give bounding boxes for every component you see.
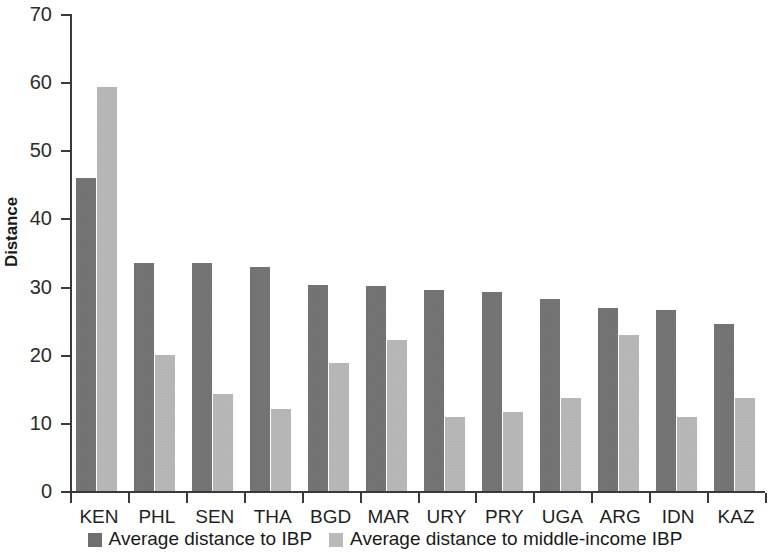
legend-label: Average distance to middle-income IBP bbox=[350, 528, 682, 550]
bar bbox=[561, 398, 581, 491]
x-tick bbox=[765, 493, 767, 503]
bar bbox=[76, 178, 96, 491]
x-tick bbox=[128, 493, 130, 503]
x-tick bbox=[302, 493, 304, 503]
x-tick-label: MAR bbox=[367, 506, 409, 528]
x-tick bbox=[533, 493, 535, 503]
x-tick bbox=[591, 493, 593, 503]
bar bbox=[250, 267, 270, 491]
chart-legend: Average distance to IBPAverage distance … bbox=[0, 528, 770, 550]
bar bbox=[329, 363, 349, 491]
x-tick-label: KEN bbox=[79, 506, 118, 528]
x-tick-label: PRY bbox=[485, 506, 524, 528]
x-tick bbox=[418, 493, 420, 503]
x-tick bbox=[707, 493, 709, 503]
x-tick-label: BGD bbox=[310, 506, 351, 528]
x-tick bbox=[475, 493, 477, 503]
bar bbox=[482, 292, 502, 491]
y-tick bbox=[61, 355, 70, 357]
bar bbox=[387, 340, 407, 491]
bar bbox=[366, 286, 386, 491]
bar bbox=[308, 285, 328, 491]
bar bbox=[445, 417, 465, 491]
y-axis-title: Distance bbox=[2, 182, 22, 282]
y-tick-label: 30 bbox=[8, 275, 52, 298]
legend-item[interactable]: Average distance to IBP bbox=[88, 528, 313, 550]
bar-chart-figure: Distance 010203040506070 KENPHLSENTHABGD… bbox=[0, 0, 770, 558]
bar bbox=[155, 355, 175, 491]
plot-area: 010203040506070 KENPHLSENTHABGDMARURYPRY… bbox=[70, 14, 765, 491]
x-tick-label: THA bbox=[254, 506, 292, 528]
y-tick bbox=[61, 82, 70, 84]
y-tick-label: 50 bbox=[8, 139, 52, 162]
y-axis-line bbox=[70, 14, 72, 491]
x-tick bbox=[649, 493, 651, 503]
y-tick bbox=[61, 14, 70, 16]
y-tick-label: 0 bbox=[8, 480, 52, 503]
bar bbox=[540, 299, 560, 491]
y-tick-label: 10 bbox=[8, 411, 52, 434]
y-tick-label: 60 bbox=[8, 71, 52, 94]
x-tick-label: KAZ bbox=[718, 506, 755, 528]
legend-label: Average distance to IBP bbox=[109, 528, 313, 550]
y-tick bbox=[61, 150, 70, 152]
x-tick bbox=[244, 493, 246, 503]
bar bbox=[271, 409, 291, 491]
y-tick-label: 20 bbox=[8, 343, 52, 366]
x-tick-label: URY bbox=[427, 506, 467, 528]
bar bbox=[97, 87, 117, 491]
bar bbox=[134, 263, 154, 491]
bar bbox=[192, 263, 212, 491]
y-tick bbox=[61, 423, 70, 425]
legend-swatch-icon bbox=[329, 533, 343, 547]
bar bbox=[213, 394, 233, 491]
x-tick-label: UGA bbox=[542, 506, 583, 528]
bar bbox=[714, 324, 734, 491]
y-tick-label: 40 bbox=[8, 207, 52, 230]
bar bbox=[503, 412, 523, 491]
x-tick-label: ARG bbox=[600, 506, 641, 528]
y-tick-label: 70 bbox=[8, 3, 52, 26]
x-tick-label: IDN bbox=[662, 506, 695, 528]
bar bbox=[619, 335, 639, 491]
y-tick bbox=[61, 287, 70, 289]
y-tick bbox=[61, 218, 70, 220]
bar bbox=[656, 310, 676, 491]
x-tick bbox=[70, 493, 72, 503]
x-tick-label: PHL bbox=[138, 506, 175, 528]
bar bbox=[598, 308, 618, 491]
legend-item[interactable]: Average distance to middle-income IBP bbox=[329, 528, 682, 550]
legend-swatch-icon bbox=[88, 533, 102, 547]
bar bbox=[735, 398, 755, 491]
x-tick bbox=[186, 493, 188, 503]
x-tick bbox=[360, 493, 362, 503]
bar bbox=[424, 290, 444, 491]
bar bbox=[677, 417, 697, 491]
y-tick bbox=[61, 491, 70, 493]
x-tick-label: SEN bbox=[195, 506, 234, 528]
